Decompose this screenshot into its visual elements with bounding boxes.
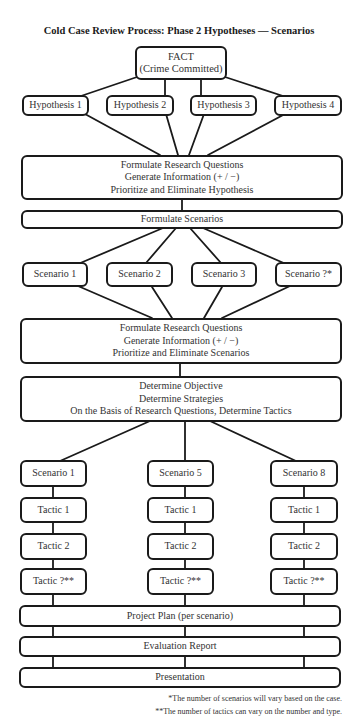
presentation-box: Presentation	[19, 667, 341, 688]
hypothesis-review-box: Formulate Research Questions Generate In…	[21, 155, 343, 200]
hypothesis-1-label: Hypothesis 1	[29, 99, 82, 112]
hypothesis-3-box: Hypothesis 3	[190, 95, 257, 116]
column-1-tactic-2-box: Tactic 2	[20, 533, 87, 560]
review-line-3: Prioritize and Eliminate Hypothesis	[110, 184, 253, 197]
scenario-review-line-2: Generate Information (+ / −)	[124, 335, 239, 348]
column-1-tactic-unknown-label: Tactic ?**	[33, 575, 74, 588]
scenario-1-box: Scenario 1	[22, 262, 88, 287]
hypothesis-3-label: Hypothesis 3	[197, 99, 250, 112]
scenario-unknown-box: Scenario ?*	[275, 262, 342, 287]
fact-label: FACT	[168, 51, 194, 64]
column-2-tactic-1-label: Tactic 1	[165, 504, 197, 517]
formulate-scenarios-label: Formulate Scenarios	[141, 213, 223, 226]
column-3-tactic-unknown-box: Tactic ?**	[270, 568, 338, 595]
footnote-tactics: **The number of tactics can vary on the …	[155, 705, 342, 718]
column-2-tactic-2-label: Tactic 2	[165, 540, 197, 553]
scenario-review-line-1: Formulate Research Questions	[120, 322, 243, 335]
project-plan-box: Project Plan (per scenario)	[19, 605, 341, 627]
formulate-scenarios-box: Formulate Scenarios	[21, 210, 343, 229]
column-2-tactic-unknown-label: Tactic ?**	[160, 575, 201, 588]
diagram-canvas: Cold Case Review Process: Phase 2 Hypoth…	[0, 0, 358, 726]
column-1-scenario-box: Scenario 1	[20, 460, 87, 487]
scenario-2-label: Scenario 2	[118, 268, 161, 281]
objective-box: Determine Objective Determine Strategies…	[20, 376, 342, 422]
column-3-tactic-2-box: Tactic 2	[270, 533, 338, 560]
scenario-review-box: Formulate Research Questions Generate In…	[20, 318, 342, 364]
column-2-tactic-2-box: Tactic 2	[147, 533, 214, 560]
fact-box: FACT (Crime Committed)	[135, 46, 227, 80]
scenario-unknown-label: Scenario ?*	[285, 268, 332, 281]
fact-sublabel: (Crime Committed)	[139, 63, 222, 76]
hypothesis-2-box: Hypothesis 2	[106, 95, 174, 116]
footnotes: *The number of scenarios will vary based…	[155, 692, 342, 718]
column-3-tactic-unknown-label: Tactic ?**	[283, 575, 324, 588]
scenario-2-box: Scenario 2	[106, 262, 173, 287]
column-1-tactic-1-label: Tactic 1	[38, 504, 70, 517]
presentation-label: Presentation	[155, 671, 204, 684]
column-1-tactic-1-box: Tactic 1	[20, 497, 87, 523]
column-2-scenario-label: Scenario 5	[159, 467, 202, 480]
scenario-3-label: Scenario 3	[203, 268, 246, 281]
column-3-scenario-label: Scenario 8	[283, 467, 326, 480]
review-line-2: Generate Information (+ / −)	[125, 171, 240, 184]
objective-line-3: On the Basis of Research Questions, Dete…	[70, 405, 291, 418]
evaluation-report-box: Evaluation Report	[19, 636, 341, 657]
scenario-review-line-3: Prioritize and Eliminate Scenarios	[113, 347, 250, 360]
review-line-1: Formulate Research Questions	[121, 159, 244, 172]
evaluation-report-label: Evaluation Report	[143, 640, 216, 653]
column-3-tactic-2-label: Tactic 2	[288, 540, 320, 553]
hypothesis-4-label: Hypothesis 4	[282, 99, 335, 112]
column-3-tactic-1-label: Tactic 1	[288, 504, 320, 517]
column-2-scenario-box: Scenario 5	[147, 460, 214, 487]
column-3-scenario-box: Scenario 8	[270, 460, 338, 487]
hypothesis-2-label: Hypothesis 2	[114, 99, 167, 112]
scenario-3-box: Scenario 3	[191, 262, 257, 287]
objective-line-1: Determine Objective	[139, 380, 223, 393]
scenario-1-label: Scenario 1	[34, 268, 77, 281]
footnote-scenarios: *The number of scenarios will vary based…	[155, 692, 342, 705]
column-2-tactic-1-box: Tactic 1	[147, 497, 214, 523]
column-1-tactic-2-label: Tactic 2	[38, 540, 70, 553]
column-3-tactic-1-box: Tactic 1	[270, 497, 338, 523]
hypothesis-4-box: Hypothesis 4	[274, 95, 342, 116]
column-2-tactic-unknown-box: Tactic ?**	[147, 568, 214, 595]
diagram-title: Cold Case Review Process: Phase 2 Hypoth…	[0, 25, 358, 36]
project-plan-label: Project Plan (per scenario)	[127, 610, 233, 623]
column-1-tactic-unknown-box: Tactic ?**	[20, 568, 87, 595]
objective-line-2: Determine Strategies	[139, 393, 223, 406]
hypothesis-1-box: Hypothesis 1	[22, 95, 89, 116]
column-1-scenario-label: Scenario 1	[32, 467, 75, 480]
